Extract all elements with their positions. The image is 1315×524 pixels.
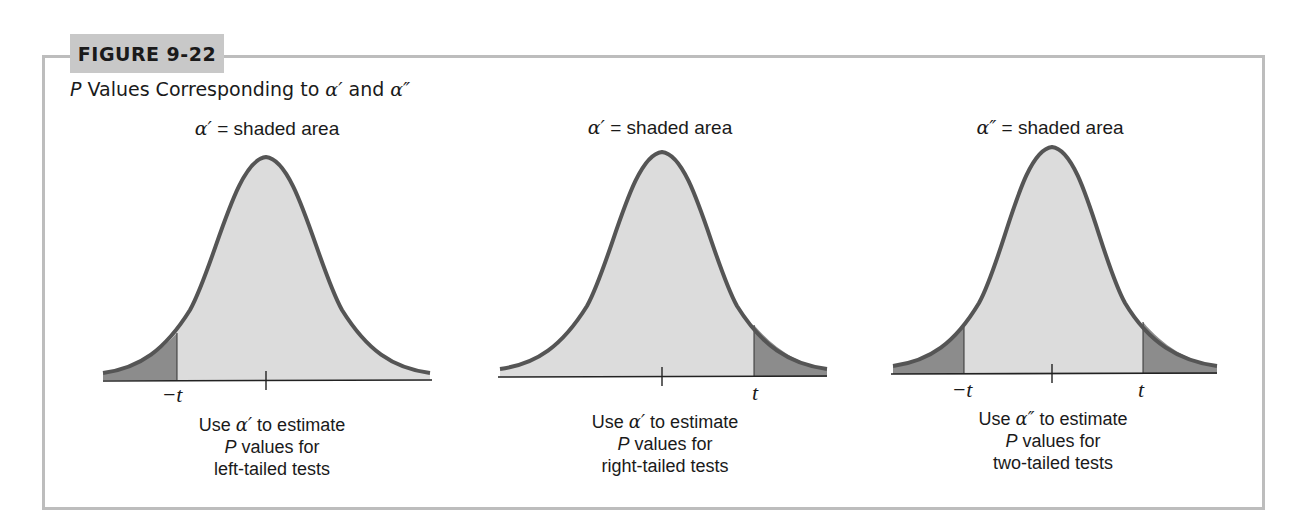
panel-2-curve <box>498 152 827 386</box>
caption-p: P <box>224 437 236 457</box>
caption-text: to estimate <box>645 412 738 432</box>
caption-symbol: α′ <box>629 411 645 432</box>
caption-text: values for <box>1017 431 1100 451</box>
caption-text: Use <box>199 415 236 435</box>
panel-3-neg-t-label: −t <box>952 377 973 403</box>
caption-text: values for <box>629 434 712 454</box>
panel-1-axis <box>103 380 432 381</box>
panel-1-caption-line2: P values for <box>199 436 345 458</box>
panel-2-caption-line1: Use α′ to estimate <box>592 411 738 433</box>
caption-symbol: α′ <box>236 414 252 435</box>
caption-text: to estimate <box>1034 409 1127 429</box>
panel-3-body-area <box>893 147 1217 374</box>
caption-p: P <box>617 434 629 454</box>
panel-3-caption: Use α″ to estimate P values for two-tail… <box>979 408 1128 474</box>
panel-2-body-area <box>500 152 827 377</box>
panel-2-t-label: t <box>752 380 758 406</box>
panel-3-curve <box>891 147 1217 383</box>
caption-p: P <box>1005 431 1017 451</box>
panel-2-caption-line3: right-tailed tests <box>592 455 738 477</box>
panel-3-right-tail <box>1143 322 1217 374</box>
panel-3-caption-line1: Use α″ to estimate <box>979 408 1128 430</box>
caption-text: to estimate <box>252 415 345 435</box>
panel-2-right-tail <box>754 325 827 377</box>
panel-2-caption: Use α′ to estimate P values for right-ta… <box>592 411 738 477</box>
panel-3-caption-line2: P values for <box>979 430 1128 452</box>
panel-3-caption-line3: two-tailed tests <box>979 452 1128 474</box>
panel-3-axis <box>891 373 1217 374</box>
caption-text: Use <box>592 412 629 432</box>
panel-3-t-label: t <box>1138 377 1144 403</box>
panel-1-neg-t-label: −t <box>162 382 183 408</box>
panel-1-caption-line3: left-tailed tests <box>199 458 345 480</box>
caption-text: Use <box>979 409 1016 429</box>
caption-symbol: α″ <box>1016 408 1035 429</box>
panel-2-caption-line2: P values for <box>592 433 738 455</box>
panel-1-body-area <box>103 157 430 380</box>
caption-text: values for <box>236 437 319 457</box>
panel-1-caption-line1: Use α′ to estimate <box>199 414 345 436</box>
panel-1-caption: Use α′ to estimate P values for left-tai… <box>199 414 345 480</box>
panel-1-curve <box>103 157 432 390</box>
